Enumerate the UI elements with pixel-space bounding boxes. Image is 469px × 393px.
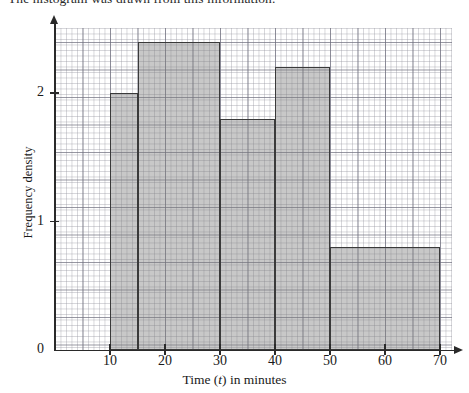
y-tick-label: 0	[18, 341, 44, 357]
histogram-bar	[330, 247, 440, 350]
histogram-chart: 012 10203040506070 Frequency density Tim…	[0, 0, 469, 393]
y-axis-line	[54, 22, 56, 351]
x-axis-title: Time (t) in minutes	[0, 372, 469, 388]
y-axis-title: Frequency density	[21, 123, 36, 263]
y-axis-arrow-icon	[50, 15, 58, 24]
histogram-bar	[220, 119, 275, 350]
histogram-bar	[110, 93, 138, 350]
plot-area	[55, 28, 452, 350]
y-tick-label: 2	[18, 84, 44, 100]
x-tick-label: 50	[313, 353, 347, 369]
x-tick-label: 40	[258, 353, 292, 369]
y-tick-mark	[50, 92, 59, 94]
histogram-bar	[275, 67, 330, 350]
x-tick-label: 60	[368, 353, 402, 369]
bar-series	[55, 28, 452, 350]
x-tick-label: 10	[93, 353, 127, 369]
y-tick-mark	[50, 221, 59, 223]
histogram-bar	[138, 42, 221, 350]
x-axis-title-prefix: Time (	[182, 372, 218, 387]
x-tick-label: 70	[423, 353, 457, 369]
x-tick-label: 20	[148, 353, 182, 369]
x-tick-label: 30	[203, 353, 237, 369]
x-axis-line	[54, 350, 457, 352]
x-axis-title-suffix: ) in minutes	[222, 372, 287, 387]
